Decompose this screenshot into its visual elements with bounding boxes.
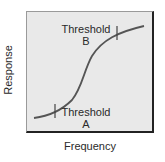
threshold-a-label: Threshold A (60, 106, 112, 130)
y-axis-label: Response (2, 40, 14, 100)
threshold-a-line1: Threshold (60, 106, 112, 118)
x-axis-label: Frequency (26, 140, 154, 152)
threshold-b-label: Threshold B (60, 23, 112, 47)
threshold-b-line1: Threshold (60, 23, 112, 35)
threshold-a-line2: A (60, 118, 112, 130)
threshold-b-line2: B (60, 35, 112, 47)
